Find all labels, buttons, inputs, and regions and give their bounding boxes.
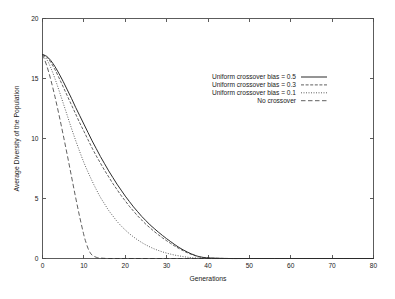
x-tick-label: 0: [41, 262, 45, 269]
x-axis-title: Generations: [189, 275, 227, 282]
y-axis-title: Average Diversity of the Population: [13, 85, 21, 191]
series-line-2: [43, 55, 374, 259]
x-tick-label: 20: [122, 262, 130, 269]
y-tick-label: 15: [31, 75, 39, 82]
x-tick-label: 70: [328, 262, 336, 269]
x-tick-label: 40: [204, 262, 212, 269]
legend-label-2: Uniform crossover bias = 0.1: [212, 89, 296, 96]
y-tick-label: 10: [31, 135, 39, 142]
series-line-1: [43, 55, 374, 259]
x-tick-label: 80: [370, 262, 378, 269]
data-series-group: [43, 55, 374, 259]
chart-legend: Uniform crossover bias = 0.5Uniform cros…: [212, 73, 327, 104]
chart-figure: 0102030405060708005101520 Uniform crosso…: [0, 0, 395, 299]
series-line-0: [43, 55, 374, 259]
x-tick-label: 60: [287, 262, 295, 269]
series-line-3: [43, 55, 374, 259]
plot-frame: [43, 19, 374, 259]
line-chart: 0102030405060708005101520 Uniform crosso…: [0, 0, 395, 299]
axis-tick-labels: 0102030405060708005101520: [31, 15, 377, 269]
y-tick-label: 0: [35, 255, 39, 262]
x-tick-label: 10: [80, 262, 88, 269]
legend-label-0: Uniform crossover bias = 0.5: [212, 73, 296, 80]
y-tick-label: 20: [31, 15, 39, 22]
y-tick-label: 5: [35, 195, 39, 202]
legend-label-1: Uniform crossover bias = 0.3: [212, 81, 296, 88]
axis-ticks: [43, 19, 374, 259]
legend-label-3: No crossover: [257, 97, 297, 104]
x-tick-label: 30: [163, 262, 171, 269]
x-tick-label: 50: [246, 262, 254, 269]
plot-border: [43, 19, 374, 259]
